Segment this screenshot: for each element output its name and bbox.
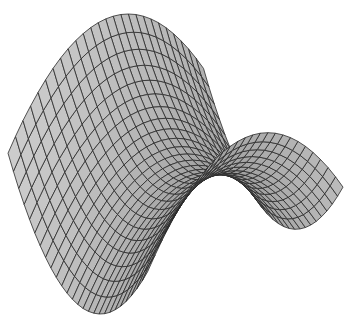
saddle-surface-plot [0,0,351,321]
surface-faces [8,14,343,314]
